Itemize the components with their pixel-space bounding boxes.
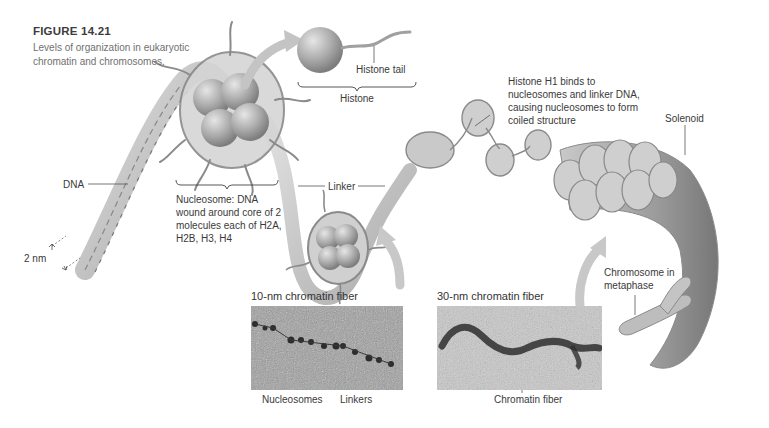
figure-caption: Levels of organization in eukaryotic chr… bbox=[33, 41, 223, 69]
label-histone-h1: Histone H1 binds to nucleosomes and link… bbox=[508, 75, 648, 127]
figure-number: FIGURE 14.21 bbox=[33, 25, 111, 37]
label-dna-width: 2 nm bbox=[24, 252, 46, 265]
label-histone: Histone bbox=[340, 92, 374, 105]
label-dna: DNA bbox=[63, 178, 84, 191]
arrow-30nm-up bbox=[580, 250, 598, 305]
label-nucleosome: Nucleosome: DNA wound around core of 2 m… bbox=[176, 193, 288, 245]
arrow-10nm-up bbox=[385, 240, 400, 285]
panel-annotation-linkers: Linkers bbox=[340, 393, 372, 406]
dimension-marks bbox=[52, 236, 80, 268]
label-histone-tail: Histone tail bbox=[356, 63, 405, 76]
histone-brace bbox=[298, 82, 416, 91]
nucleosome-brace bbox=[176, 180, 278, 189]
micrograph-10nm bbox=[251, 306, 403, 390]
label-solenoid: Solenoid bbox=[665, 112, 704, 125]
panel-annotation-nucleosomes: Nucleosomes bbox=[262, 393, 323, 406]
label-chromosome: Chromosome in metaphase bbox=[604, 266, 676, 292]
micrograph-30nm bbox=[437, 306, 602, 390]
panel-title-30nm: 30-nm chromatin fiber bbox=[437, 290, 544, 302]
label-linker: Linker bbox=[328, 180, 355, 193]
panel-annotation-chromatin-fiber: Chromatin fiber bbox=[494, 393, 562, 406]
panel-title-10nm: 10-nm chromatin fiber bbox=[251, 290, 358, 302]
